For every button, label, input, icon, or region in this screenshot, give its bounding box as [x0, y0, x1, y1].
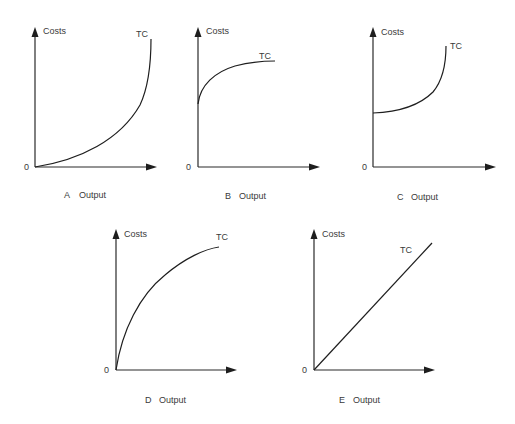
x-axis-arrow-icon	[309, 164, 320, 171]
x-axis-label: Output	[411, 192, 439, 202]
tc-label: TC	[259, 51, 271, 61]
y-axis-arrow-icon	[113, 229, 120, 239]
x-axis-label: Output	[79, 190, 107, 200]
y-axis-label: Costs	[43, 26, 67, 36]
x-axis-arrow-icon	[146, 164, 157, 171]
origin-label: 0	[362, 162, 367, 172]
tc-curve	[198, 61, 275, 104]
panel-letter: C	[397, 192, 404, 202]
panel-e: Costs 0 TC E Output	[302, 229, 435, 405]
tc-label: TC	[216, 232, 228, 242]
y-axis-arrow-icon	[195, 27, 202, 37]
tc-label: TC	[400, 245, 412, 255]
panel-letter: E	[339, 395, 345, 405]
y-axis-arrow-icon	[32, 27, 39, 37]
x-axis-arrow-icon	[226, 367, 237, 374]
tc-label: TC	[136, 29, 148, 39]
tc-label: TC	[450, 41, 462, 51]
panel-letter: B	[225, 191, 231, 201]
tc-curve	[373, 46, 446, 113]
origin-label: 0	[186, 162, 191, 172]
x-axis-label: Output	[159, 395, 187, 405]
y-axis-label: Costs	[206, 26, 230, 36]
panel-b: Costs 0 TC B Output	[186, 26, 320, 201]
x-axis-label: Output	[353, 395, 381, 405]
x-axis-arrow-icon	[485, 164, 496, 171]
y-axis-label: Costs	[381, 27, 405, 37]
x-axis-label: Output	[239, 191, 267, 201]
tc-curve	[116, 247, 219, 370]
panel-letter: A	[64, 190, 70, 200]
origin-label: 0	[24, 162, 29, 172]
y-axis-label: Costs	[322, 229, 346, 239]
origin-label: 0	[104, 365, 109, 375]
panel-a: Costs 0 TC A Output	[24, 26, 157, 200]
origin-label: 0	[302, 365, 307, 375]
x-axis-arrow-icon	[424, 367, 435, 374]
cost-curves-figure: Costs 0 TC A Output Costs 0 TC B Output …	[0, 0, 515, 424]
y-axis-arrow-icon	[370, 27, 377, 37]
panel-c: Costs 0 TC C Output	[362, 27, 496, 202]
tc-curve	[35, 39, 151, 167]
panel-d: Costs 0 TC D Output	[104, 229, 237, 405]
y-axis-arrow-icon	[311, 229, 318, 239]
tc-curve	[314, 243, 432, 370]
panel-letter: D	[145, 395, 152, 405]
y-axis-label: Costs	[124, 229, 148, 239]
